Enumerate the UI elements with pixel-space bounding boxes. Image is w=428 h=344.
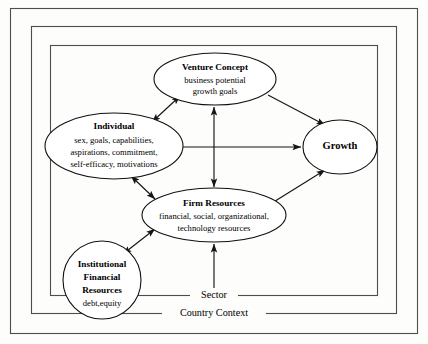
conceptual-model-diagram: Venture Concept business potential growt…: [0, 0, 428, 344]
firm-resources-title: Firm Resources: [183, 198, 245, 208]
growth-title: Growth: [323, 140, 358, 151]
firm-resources-line-1: financial, social, organizational,: [159, 211, 269, 221]
institutional-financial-resources-title-line-2: Financial: [84, 272, 121, 282]
node-growth[interactable]: Growth: [303, 120, 377, 174]
diagram-canvas: Venture Concept business potential growt…: [0, 0, 428, 344]
individual-line-2: aspirations, commitment,: [70, 147, 157, 157]
institutional-financial-resources-title-line-3: Resources: [82, 285, 122, 295]
institutional-financial-resources-line-1: debt,equity: [83, 298, 122, 308]
individual-line-3: self-efficacy, motivations: [70, 159, 158, 169]
caption-sector-group: Sector: [190, 288, 238, 303]
connector-individual-firm: [131, 176, 155, 199]
institutional-financial-resources-title-line-1: Institutional: [78, 259, 127, 269]
firm-resources-line-2: technology resources: [178, 223, 251, 233]
node-venture-concept[interactable]: Venture Concept business potential growt…: [154, 53, 276, 105]
node-individual[interactable]: Individual sex, goals, capabilities, asp…: [45, 113, 183, 179]
individual-line-1: sex, goals, capabilities,: [74, 135, 153, 145]
node-institutional-financial-resources[interactable]: Institutional Financial Resources debt,e…: [63, 241, 141, 319]
connector-individual-venture: [152, 96, 180, 122]
caption-country-context-group: Country Context: [162, 306, 266, 321]
node-firm-resources[interactable]: Firm Resources financial, social, organi…: [142, 188, 286, 242]
caption-country-context: Country Context: [180, 307, 248, 318]
connector-firm-growth: [272, 170, 325, 203]
venture-concept-title: Venture Concept: [182, 62, 249, 72]
connector-venture-growth: [268, 95, 325, 125]
caption-sector: Sector: [201, 289, 228, 300]
venture-concept-line-2: growth goals: [193, 86, 238, 96]
individual-title: Individual: [94, 121, 135, 131]
venture-concept-line-1: business potential: [184, 75, 246, 85]
